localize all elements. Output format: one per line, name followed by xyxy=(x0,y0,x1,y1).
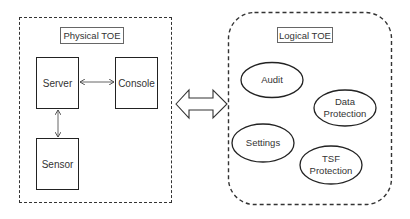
server-node: Server xyxy=(36,57,79,109)
data-protection-line1: Data xyxy=(335,96,355,108)
logical-toe-label: Logical TOE xyxy=(277,27,333,43)
settings-label: Settings xyxy=(232,124,294,162)
console-label: Console xyxy=(118,78,155,89)
sensor-label: Sensor xyxy=(42,159,74,170)
audit-label: Audit xyxy=(241,62,303,97)
data-protection-label: Data Protection xyxy=(314,90,376,126)
server-label: Server xyxy=(43,78,72,89)
physical-toe-label: Physical TOE xyxy=(60,27,124,44)
tsf-protection-line1: TSF xyxy=(322,153,340,165)
sensor-node: Sensor xyxy=(36,138,79,190)
console-node: Console xyxy=(115,57,158,109)
audit-text: Audit xyxy=(261,74,283,86)
settings-text: Settings xyxy=(246,137,280,149)
tsf-protection-label: TSF Protection xyxy=(300,146,362,184)
data-protection-line2: Protection xyxy=(324,108,367,120)
tsf-protection-line2: Protection xyxy=(310,165,353,177)
double-arrow-icon xyxy=(176,90,227,118)
